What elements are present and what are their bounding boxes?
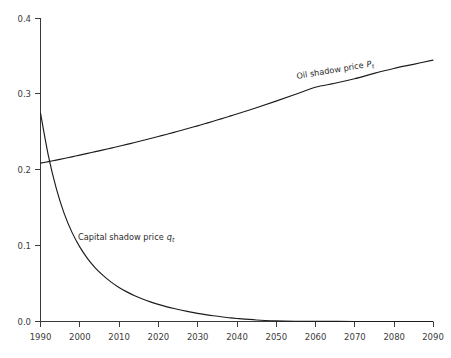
x-tick-label-2000: 2000	[69, 332, 91, 342]
x-tick-label-2030: 2030	[187, 332, 209, 342]
y-tick-label-0: 0.0	[17, 317, 31, 327]
x-tick-label-2040: 2040	[226, 332, 248, 342]
oil-shadow-price-label: Oil shadow pricePt	[296, 58, 376, 82]
oil-shadow-price-annotation: Oil shadow pricePt	[296, 58, 376, 82]
x-tick-label-2090: 2090	[422, 332, 444, 342]
x-tick-label-1990: 1990	[30, 332, 52, 342]
x-tick-label-2070: 2070	[344, 332, 366, 342]
x-tick-label-2050: 2050	[265, 332, 287, 342]
line-chart: 0.0 0.1 0.2 0.3 0.4 1990 2000 2010 2020	[0, 0, 451, 358]
x-tick-marks	[41, 322, 434, 328]
series-line-capital-shadow-price	[41, 113, 434, 321]
capital-shadow-price-label: Capital shadow priceqt	[78, 232, 175, 243]
x-tick-label-2060: 2060	[305, 332, 327, 342]
y-tick-label-2: 0.2	[17, 165, 31, 175]
x-tick-label-2080: 2080	[383, 332, 405, 342]
series-line-oil-shadow-price	[41, 60, 434, 163]
y-tick-marks	[35, 19, 41, 322]
y-tick-label-1: 0.1	[17, 241, 31, 251]
x-tick-label-2010: 2010	[108, 332, 130, 342]
x-tick-labels: 1990 2000 2010 2020 2030 2040 2050 2060 …	[30, 332, 444, 342]
capital-shadow-price-annotation: Capital shadow priceqt	[78, 232, 175, 243]
y-tick-label-3: 0.3	[17, 89, 31, 99]
x-tick-label-2020: 2020	[148, 332, 170, 342]
chart-figure: 0.0 0.1 0.2 0.3 0.4 1990 2000 2010 2020	[0, 0, 451, 358]
y-tick-label-4: 0.4	[17, 14, 31, 24]
y-tick-labels: 0.0 0.1 0.2 0.3 0.4	[17, 14, 31, 327]
